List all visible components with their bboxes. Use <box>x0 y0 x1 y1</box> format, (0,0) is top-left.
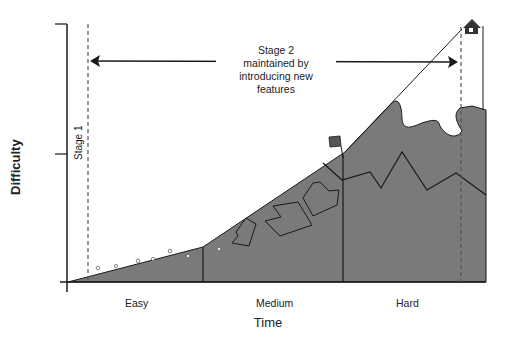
category-hard: Hard <box>396 297 419 309</box>
stage2-label: Stage 2 maintained by introducing new fe… <box>216 44 336 96</box>
terrain-area <box>68 101 486 282</box>
stage1-label: Stage 1 <box>73 126 84 160</box>
stage2-line-4: features <box>216 83 336 96</box>
x-axis-label: Time <box>0 315 506 330</box>
stage2-line-2: maintained by <box>216 57 336 70</box>
category-easy: Easy <box>125 297 148 309</box>
stage2-line-1: Stage 2 <box>216 44 336 57</box>
category-medium: Medium <box>256 297 293 309</box>
y-axis-label: Difficulty <box>8 139 23 195</box>
stage2-line-3: introducing new <box>216 70 336 83</box>
house-icon <box>463 19 481 34</box>
